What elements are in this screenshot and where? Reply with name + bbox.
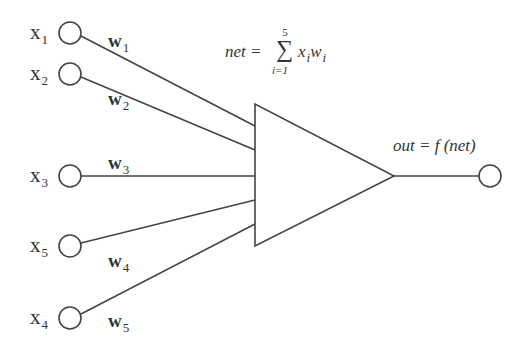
input-var: x: [30, 305, 41, 329]
input-label-x2: x2: [30, 61, 48, 89]
weight-label-w1: w1: [108, 30, 129, 56]
input-var: x: [30, 233, 41, 257]
weight-label-w3: w3: [108, 152, 129, 178]
input-subscript: 3: [42, 175, 49, 190]
weight-var: w: [108, 250, 122, 271]
input-node-x3: [59, 165, 81, 187]
input-subscript: 4: [42, 317, 49, 332]
net-equation-lhs: net =: [225, 42, 262, 62]
term-w: w: [310, 42, 321, 61]
input-var: x: [30, 20, 41, 44]
weight-label-w5: w5: [108, 310, 129, 336]
weight-subscript: 3: [123, 162, 130, 177]
term-x: x: [298, 42, 306, 61]
sum-lower-limit: i=1: [272, 64, 288, 76]
term-w-index: i: [323, 50, 327, 65]
weight-label-w4: w4: [108, 250, 129, 276]
output-node: [479, 165, 501, 187]
summation-triangle: [255, 104, 394, 246]
input-node-x5: [59, 235, 81, 257]
input-node-x1: [59, 22, 81, 44]
input-var: x: [30, 163, 41, 187]
output-equation: out = f (net): [393, 136, 476, 156]
weight-subscript: 5: [123, 320, 130, 335]
diagram-graphics: [0, 0, 528, 356]
weight-subscript: 2: [123, 98, 130, 113]
input-node-x2: [59, 63, 81, 85]
neuron-diagram: x1 x2 x3 x5 x4 w1 w2 w3 w4 w5 net = 5 ∑ …: [0, 0, 528, 356]
weight-subscript: 1: [123, 40, 130, 55]
input-node-x4: [59, 307, 81, 329]
input-label-x1: x1: [30, 20, 48, 48]
input-label-x4: x4: [30, 305, 48, 333]
input-var: x: [30, 61, 41, 85]
weight-var: w: [108, 310, 122, 331]
input-label-x5: x5: [30, 233, 48, 261]
weight-var: w: [108, 30, 122, 51]
net-equation-term: xiwi: [298, 42, 326, 66]
input-label-x3: x3: [30, 163, 48, 191]
weight-var: w: [108, 88, 122, 109]
weight-subscript: 4: [123, 260, 130, 275]
weight-label-w2: w2: [108, 88, 129, 114]
input-subscript: 2: [42, 73, 49, 88]
input-subscript: 1: [42, 32, 49, 47]
weight-var: w: [108, 152, 122, 173]
sigma-symbol: ∑: [276, 36, 293, 63]
input-subscript: 5: [42, 245, 49, 260]
connection-x5: [81, 200, 255, 243]
